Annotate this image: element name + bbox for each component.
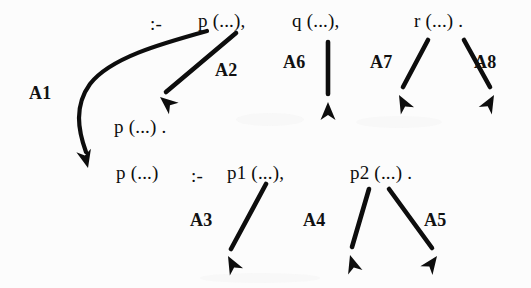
arrow-label-a3: A3 xyxy=(190,211,213,229)
arrow-label-a4: A4 xyxy=(303,211,326,229)
arrow-layer xyxy=(0,0,531,288)
code-token-fact-p: p (...) . xyxy=(114,117,166,136)
code-token-rule-body-p1: p1 (...), xyxy=(227,163,284,182)
arrow-label-a1: A1 xyxy=(29,84,52,102)
arrow-head-a5 xyxy=(420,252,443,275)
code-token-rule-neck: :- xyxy=(191,166,203,185)
arrow-head-a3 xyxy=(221,252,243,275)
arrow-label-a5: A5 xyxy=(424,211,447,229)
arrow-label-a8: A8 xyxy=(474,53,497,71)
code-token-rule-head-p: p (...) xyxy=(116,163,159,182)
arrow-label-a6: A6 xyxy=(283,53,306,71)
arrow-shaft-a3 xyxy=(231,184,266,249)
code-token-neck-top: :- xyxy=(150,14,162,33)
arrow-label-a7: A7 xyxy=(370,53,393,71)
arrow-shaft-a4 xyxy=(352,189,369,247)
code-token-rule-body-p2: p2 (...) . xyxy=(350,163,412,182)
arrow-head-a6 xyxy=(321,102,336,120)
prolog-arrow-diagram: :-p (...),q (...),r (...) .p (...) .p (.… xyxy=(0,0,531,288)
arrow-label-a2: A2 xyxy=(215,61,238,79)
arrow-head-a8 xyxy=(479,91,501,114)
arrow-head-a4 xyxy=(343,253,363,275)
arrow-head-a2 xyxy=(155,91,178,114)
arrow-shaft-a7 xyxy=(403,40,428,87)
code-token-goal-q: q (...), xyxy=(292,11,340,30)
code-token-goal-r: r (...) . xyxy=(414,11,463,30)
code-token-goal-p: p (...), xyxy=(198,11,246,30)
arrow-head-a7 xyxy=(392,91,414,114)
